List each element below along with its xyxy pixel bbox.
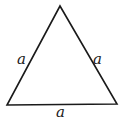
right-side-label: a: [93, 50, 102, 68]
triangle-figure: a a a: [0, 0, 126, 121]
left-side-label: a: [17, 50, 26, 68]
triangle-diagram: a a a: [0, 0, 126, 121]
bottom-side-label: a: [56, 103, 65, 121]
